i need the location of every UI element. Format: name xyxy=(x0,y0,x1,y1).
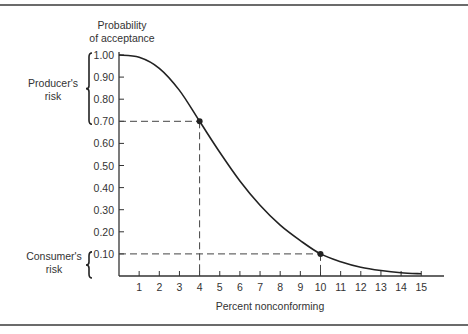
y-tick-label: 0.50 xyxy=(84,160,114,172)
producer-risk-brace-icon xyxy=(86,53,92,124)
x-tick-label: 4 xyxy=(190,281,210,293)
consumer-risk-label-line1: Consumer's xyxy=(22,250,86,262)
y-tick-label: 0.60 xyxy=(84,137,114,149)
x-tick-label: 11 xyxy=(331,281,351,293)
x-tick-label: 2 xyxy=(149,281,169,293)
y-tick-label: 0.90 xyxy=(84,71,114,83)
x-tick-label: 8 xyxy=(270,281,290,293)
x-axis-title: Percent nonconforming xyxy=(200,300,340,312)
y-tick-label: 0.30 xyxy=(84,204,114,216)
x-tick-label: 14 xyxy=(391,281,411,293)
y-axis-title-line1: Probability xyxy=(82,19,162,31)
producer-risk-label-line1: Producer's xyxy=(24,77,82,89)
x-tick-label: 7 xyxy=(250,281,270,293)
y-tick-label: 0.80 xyxy=(84,93,114,105)
x-tick-label: 15 xyxy=(411,281,431,293)
reference-lines xyxy=(119,121,321,276)
x-tick-label: 5 xyxy=(210,281,230,293)
consumer-risk-label-line2: risk xyxy=(22,263,86,275)
y-tick-label: 0.40 xyxy=(84,182,114,194)
y-tick-label: 1.00 xyxy=(84,49,114,61)
x-tick-label: 6 xyxy=(230,281,250,293)
x-tick-label: 13 xyxy=(371,281,391,293)
x-tick-label: 1 xyxy=(129,281,149,293)
y-tick-label: 0.20 xyxy=(84,226,114,238)
oc-curve xyxy=(119,55,421,274)
y-tick-label: 0.70 xyxy=(84,115,114,127)
marked-points xyxy=(197,118,324,257)
y-tick-label: 0.10 xyxy=(84,248,114,260)
marked-point xyxy=(318,251,324,257)
x-tick-label: 3 xyxy=(169,281,189,293)
marked-point xyxy=(197,118,203,124)
x-tick-label: 9 xyxy=(290,281,310,293)
x-tick-label: 10 xyxy=(311,281,331,293)
producer-risk-label-line2: risk xyxy=(24,90,82,102)
axes xyxy=(119,52,444,276)
y-axis-title-line2: of acceptance xyxy=(74,32,170,44)
x-tick-label: 12 xyxy=(351,281,371,293)
